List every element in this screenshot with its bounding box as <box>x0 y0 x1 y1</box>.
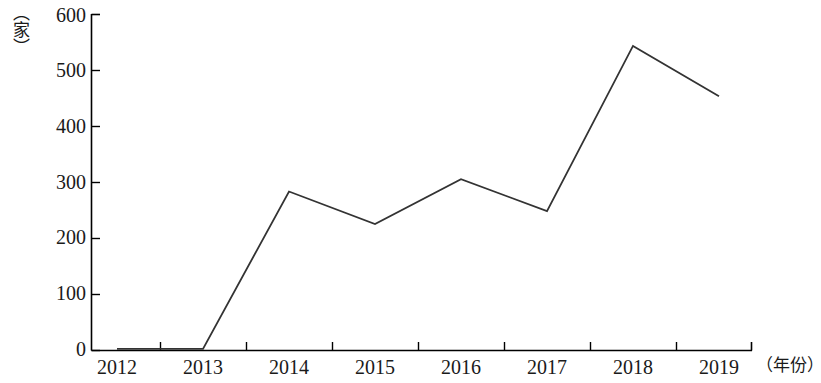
x-axis-ticks <box>161 342 677 351</box>
plot-area <box>0 0 821 383</box>
data-series-line <box>117 46 719 349</box>
y-axis-ticks <box>92 71 101 351</box>
axis-lines <box>92 14 753 351</box>
line-chart: （家） 0 100 200 300 400 500 600 2012 2013 … <box>0 0 821 383</box>
